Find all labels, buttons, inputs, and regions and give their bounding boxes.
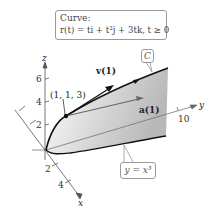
acceleration-label: a(1) xyxy=(139,105,160,115)
surface-callout-tail xyxy=(124,145,133,162)
y-tick-10: 10 xyxy=(178,114,189,124)
z-tick-2: 2 xyxy=(36,120,42,130)
surface-label: y = x³ xyxy=(124,165,151,175)
curve-equation: r(t) = ti + t²j + 3tk, t ≥ 0 xyxy=(60,24,162,36)
x-axis-label: x xyxy=(78,198,83,208)
point-marker xyxy=(64,114,68,118)
z-tick-4: 4 xyxy=(36,97,42,107)
z-axis-label: z xyxy=(42,53,47,63)
x-tick-4: 4 xyxy=(58,180,64,190)
curve-c-label-box: C xyxy=(141,49,154,63)
curve-c-label: C xyxy=(144,51,151,61)
space-curve-figure: Curve: r(t) = ti + t²j + 3tk, t ≥ 0 C y … xyxy=(0,0,212,209)
point-leader-line xyxy=(63,99,65,114)
curve-c-callout-tail xyxy=(146,62,152,72)
y-axis-label: y xyxy=(199,100,204,110)
z-tick-6: 6 xyxy=(36,74,42,84)
x-tick-2: 2 xyxy=(45,164,51,174)
velocity-label: v(1) xyxy=(96,66,116,76)
curve-definition-box: Curve: r(t) = ti + t²j + 3tk, t ≥ 0 xyxy=(55,10,167,40)
curve-box-title: Curve: xyxy=(60,12,162,24)
point-label: (1, 1, 3) xyxy=(50,90,86,100)
surface-label-box: y = x³ xyxy=(120,162,156,179)
